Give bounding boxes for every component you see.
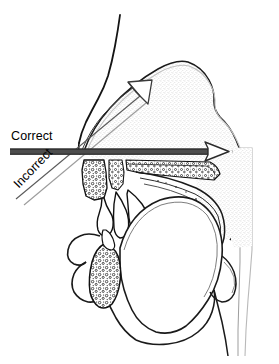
head-cross-section-illustration (0, 0, 279, 364)
pharyngeal-wall (230, 146, 256, 356)
anatomical-airflow-diagram: Correct Incorrect (0, 0, 279, 364)
mandible (89, 230, 120, 308)
correct-label: Correct (11, 130, 53, 143)
tongue (120, 197, 222, 333)
